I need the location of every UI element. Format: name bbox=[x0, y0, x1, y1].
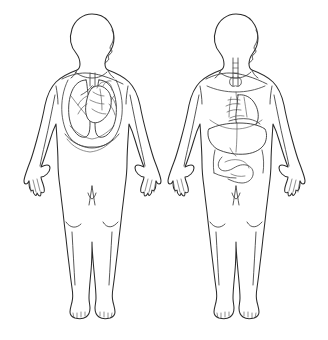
body-outline-left bbox=[24, 14, 161, 319]
anatomy-figures-svg bbox=[0, 0, 328, 340]
figure-right bbox=[168, 14, 305, 319]
anatomy-illustration-canvas: Human Body Anatomy Diagram bbox=[0, 0, 328, 340]
figure-left bbox=[24, 14, 161, 319]
